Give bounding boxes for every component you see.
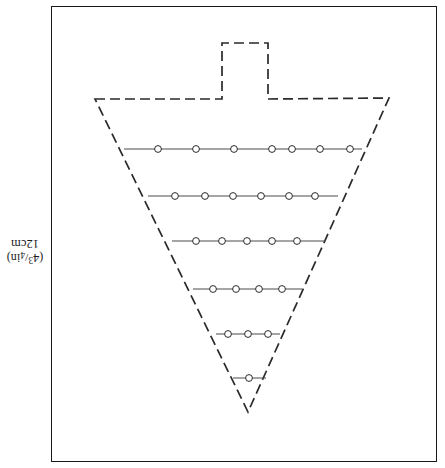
- stitch-row-1-marker-4: [269, 146, 276, 153]
- stitch-row-3-marker-5: [294, 238, 301, 245]
- cone-pattern-drawing: [0, 0, 445, 468]
- figure-root: (43/4in) 12cm: [0, 0, 445, 468]
- stitch-row-1-marker-3: [231, 146, 238, 153]
- stitch-row-2-marker-6: [312, 193, 319, 200]
- stitch-row-1-marker-6: [317, 146, 324, 153]
- stitch-row-3-marker-4: [269, 238, 276, 245]
- stitch-row-5: [216, 331, 280, 338]
- stitch-row-3-marker-1: [193, 238, 200, 245]
- stitch-row-2: [148, 193, 338, 200]
- stitch-row-1-marker-1: [155, 146, 162, 153]
- stitch-row-3-marker-3: [244, 238, 251, 245]
- svg-layer: [95, 43, 389, 412]
- stitch-row-1: [124, 146, 362, 153]
- stitch-row-2-marker-3: [230, 193, 237, 200]
- stitch-row-5-marker-2: [245, 331, 252, 338]
- stitch-row-4-marker-3: [256, 286, 263, 293]
- stitch-row-1-marker-5: [289, 146, 296, 153]
- stitch-row-2-marker-1: [172, 193, 179, 200]
- cone-outline-dashed: [95, 43, 389, 412]
- stitch-row-6: [233, 375, 266, 382]
- stitch-row-3: [172, 238, 325, 245]
- stitch-row-4-marker-4: [279, 286, 286, 293]
- stitch-row-2-marker-4: [258, 193, 265, 200]
- stitch-row-2-marker-5: [286, 193, 293, 200]
- stitch-row-1-marker-2: [193, 146, 200, 153]
- stitch-row-2-marker-2: [202, 193, 209, 200]
- stitch-row-5-marker-3: [265, 331, 272, 338]
- stitch-row-4-marker-2: [233, 286, 240, 293]
- stitch-row-4-marker-1: [210, 286, 217, 293]
- stitch-row-5-marker-1: [225, 331, 232, 338]
- stitch-row-6-marker-1: [246, 375, 253, 382]
- stitch-row-3-marker-2: [219, 238, 226, 245]
- stitch-row-4: [193, 286, 302, 293]
- stitch-row-1-marker-7: [347, 146, 354, 153]
